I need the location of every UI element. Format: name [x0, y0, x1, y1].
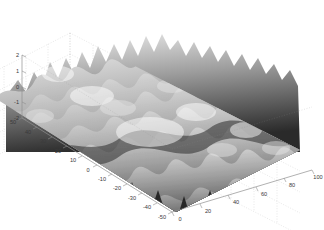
y-tick-label: -10	[98, 176, 106, 182]
y-tick-label: -40	[143, 204, 151, 210]
x-tick-label: 40	[233, 199, 239, 205]
x-tick-label: 0	[178, 216, 181, 222]
y-tick-label: -30	[128, 195, 136, 201]
z-tick-label: 0	[16, 84, 19, 90]
z-tick-label: -1	[14, 99, 19, 105]
y-tick-label: 50	[10, 119, 16, 125]
x-tick-label: 80	[289, 182, 295, 188]
y-tick-label: 20	[55, 148, 61, 154]
y-tick-label: -50	[158, 214, 166, 220]
x-tick-label: 20	[205, 208, 211, 214]
y-tick-label: 40	[25, 129, 31, 135]
y-tick-label: 10	[70, 157, 76, 163]
y-tick-label: 30	[40, 138, 46, 144]
z-tick-label: 2	[16, 52, 19, 58]
surface-plot-svg: 2 1 0 -1 -2 50 40 30 20 10 0 -10 -20 -30…	[0, 0, 324, 230]
x-tick-label: 60	[261, 191, 267, 197]
z-tick-label: 1	[16, 68, 19, 74]
surface-mesh	[0, 34, 316, 230]
y-tick-label: -20	[113, 185, 121, 191]
figure-canvas: 2 1 0 -1 -2 50 40 30 20 10 0 -10 -20 -30…	[0, 0, 324, 230]
y-tick-label: 0	[86, 167, 89, 173]
x-tick-label: 100	[313, 174, 322, 180]
